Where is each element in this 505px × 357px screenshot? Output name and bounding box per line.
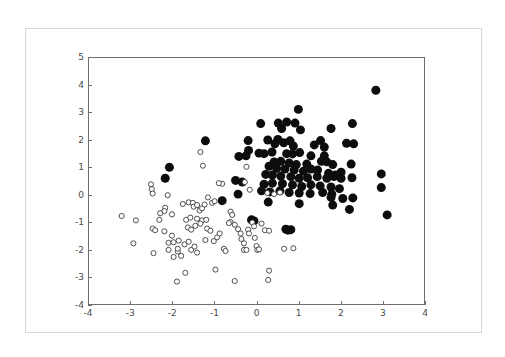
data-point-filled	[345, 205, 354, 214]
y-tick-label: -4	[70, 300, 84, 310]
data-point-filled	[244, 136, 253, 145]
data-point-open	[169, 212, 174, 217]
data-point-filled	[289, 142, 298, 151]
data-point-open	[194, 216, 199, 221]
data-point-open	[241, 241, 246, 246]
data-point-open	[203, 237, 208, 242]
x-tick-mark	[130, 301, 131, 305]
data-point-filled	[320, 143, 329, 152]
data-point-filled	[335, 184, 344, 193]
data-point-filled	[306, 180, 315, 189]
x-tick-mark	[383, 301, 384, 305]
data-point-open	[169, 233, 174, 238]
screenshot-root: -4-3-2-101234-4-3-2-1012345	[0, 0, 505, 357]
data-point-open	[193, 223, 198, 228]
x-tick-label: -1	[210, 308, 219, 318]
data-point-filled	[306, 151, 315, 160]
y-tick-mark	[88, 85, 92, 86]
data-point-filled	[328, 160, 337, 169]
y-tick-label: -3	[70, 272, 84, 282]
y-tick-label: 5	[70, 52, 84, 62]
y-tick-mark	[88, 277, 92, 278]
data-point-open	[212, 199, 217, 204]
data-point-open	[208, 228, 213, 233]
data-point-open	[157, 217, 162, 222]
data-point-open	[179, 253, 184, 258]
y-tick-label: -2	[70, 245, 84, 255]
y-tick-label: 1	[70, 162, 84, 172]
y-tick-label: 4	[70, 80, 84, 90]
data-point-filled	[349, 139, 358, 148]
data-point-open	[272, 192, 277, 197]
data-point-filled	[295, 199, 304, 208]
plot-axes	[88, 57, 425, 305]
data-point-filled	[260, 149, 269, 158]
data-point-open	[226, 221, 231, 226]
data-point-open	[192, 244, 197, 249]
data-point-filled	[296, 125, 305, 134]
data-point-filled	[256, 119, 265, 128]
data-point-open	[238, 231, 243, 236]
data-point-filled	[295, 189, 304, 198]
data-point-filled	[347, 160, 356, 169]
y-tick-mark	[88, 57, 92, 58]
x-tick-label: -4	[84, 308, 93, 318]
data-point-open	[151, 251, 156, 256]
data-point-filled	[268, 148, 277, 157]
data-point-open	[291, 246, 296, 251]
data-point-filled	[286, 172, 295, 181]
data-point-open	[266, 277, 271, 282]
data-point-open	[242, 180, 247, 185]
data-point-open	[166, 247, 171, 252]
scatter-plot-canvas	[89, 58, 424, 304]
data-point-filled	[285, 188, 294, 197]
data-point-filled	[337, 174, 346, 183]
data-point-filled	[338, 194, 347, 203]
x-tick-mark	[341, 301, 342, 305]
data-point-filled	[288, 180, 297, 189]
matplotlib-figure: -4-3-2-101234-4-3-2-1012345	[0, 0, 505, 357]
data-point-open	[188, 215, 193, 220]
x-tick-label: 2	[338, 308, 344, 318]
x-tick-label: 0	[254, 308, 260, 318]
data-point-open	[175, 246, 180, 251]
y-tick-label: 0	[70, 190, 84, 200]
data-point-open	[148, 182, 153, 187]
data-point-open	[265, 190, 270, 195]
data-point-filled	[348, 193, 357, 202]
data-point-filled	[281, 225, 290, 234]
data-point-open	[204, 217, 209, 222]
y-tick-mark	[88, 250, 92, 251]
data-point-open	[267, 228, 272, 233]
data-point-open	[244, 164, 249, 169]
data-point-open	[277, 190, 282, 195]
data-point-open	[174, 279, 179, 284]
data-point-filled	[295, 148, 304, 157]
data-point-open	[213, 267, 218, 272]
data-point-filled	[383, 210, 392, 219]
data-point-filled	[268, 179, 277, 188]
data-point-open	[180, 201, 185, 206]
y-tick-mark	[88, 305, 92, 306]
data-point-open	[223, 248, 228, 253]
x-tick-label: 4	[422, 308, 428, 318]
y-tick-mark	[88, 112, 92, 113]
x-tick-mark	[425, 301, 426, 305]
data-point-open	[259, 221, 264, 226]
data-point-filled	[234, 152, 243, 161]
y-tick-mark	[88, 140, 92, 141]
data-point-open	[216, 181, 221, 186]
x-tick-label: 1	[296, 308, 302, 318]
data-point-open	[171, 254, 176, 259]
data-point-open	[198, 149, 203, 154]
data-point-open	[176, 238, 181, 243]
data-point-open	[251, 224, 256, 229]
data-point-filled	[279, 138, 288, 147]
data-point-open	[186, 239, 191, 244]
data-point-filled	[310, 140, 319, 149]
data-point-open	[256, 247, 261, 252]
data-point-filled	[347, 173, 356, 182]
data-point-open	[194, 250, 199, 255]
data-point-filled	[295, 174, 304, 183]
data-point-filled	[268, 171, 277, 180]
